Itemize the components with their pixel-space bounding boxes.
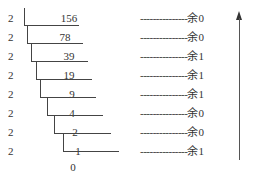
divisor: 2 xyxy=(8,145,14,157)
divisor: 2 xyxy=(8,50,14,62)
ladder-vertical-line xyxy=(54,115,55,133)
remainder-label: ---------------余0 xyxy=(140,126,204,138)
quotient: 156 xyxy=(54,12,84,24)
divisor: 2 xyxy=(8,126,14,138)
divisor: 2 xyxy=(8,69,14,81)
ladder-vertical-line xyxy=(47,97,48,115)
ladder-horizontal-line xyxy=(27,43,83,44)
quotient: 78 xyxy=(50,31,80,43)
ladder-horizontal-line xyxy=(63,151,119,152)
divisor: 2 xyxy=(8,31,14,43)
ladder-vertical-line xyxy=(40,79,41,97)
remainder-label: ---------------余0 xyxy=(140,12,204,24)
ladder-vertical-line xyxy=(36,61,37,79)
divisor: 2 xyxy=(8,107,14,119)
divisor: 2 xyxy=(8,88,14,100)
ladder-vertical-line xyxy=(27,25,28,43)
ladder-vertical-line xyxy=(24,8,25,25)
divisor: 2 xyxy=(8,12,14,24)
quotient: 2 xyxy=(60,126,90,138)
arrow-shaft xyxy=(239,18,240,160)
quotient: 4 xyxy=(57,107,87,119)
ladder-horizontal-line xyxy=(40,97,96,98)
ladder-horizontal-line xyxy=(47,115,103,116)
final-quotient: 0 xyxy=(58,161,88,173)
remainder-label: ---------------余1 xyxy=(140,50,204,62)
remainder-label: ---------------余1 xyxy=(140,145,204,157)
remainder-label: ---------------余1 xyxy=(140,69,204,81)
ladder-horizontal-line xyxy=(36,79,92,80)
remainder-label: ---------------余0 xyxy=(140,31,204,43)
remainder-label: ---------------余0 xyxy=(140,107,204,119)
remainder-label: ---------------余1 xyxy=(140,88,204,100)
ladder-horizontal-line xyxy=(31,61,88,62)
quotient: 9 xyxy=(57,88,87,100)
ladder-vertical-line xyxy=(31,43,32,61)
ladder-horizontal-line xyxy=(24,25,79,26)
